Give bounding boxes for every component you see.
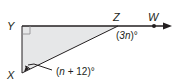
label-vertex-y: Y <box>7 20 15 32</box>
point-w <box>152 24 156 28</box>
label-vertex-z: Z <box>112 11 121 23</box>
ray-arrowhead-icon <box>163 23 172 30</box>
label-angle-z: (3n)° <box>116 30 138 41</box>
paren-close-degree: )° <box>130 30 137 41</box>
label-angle-x: (n + 12)° <box>56 66 95 77</box>
label-vertex-x: X <box>6 69 15 81</box>
triangle-diagram: Y X Z W (3n)° (n + 12)° <box>0 0 180 82</box>
label-point-w: W <box>148 11 160 23</box>
angle-z-expression: 3n <box>119 30 131 41</box>
angle-x-rest: + 12)° <box>65 66 95 77</box>
